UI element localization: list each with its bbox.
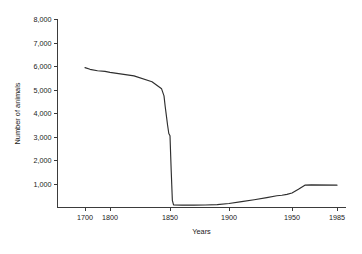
series-line-number-of-animals — [85, 68, 337, 205]
x-tick-label: 1950 — [284, 213, 300, 222]
x-axis-title: Years — [192, 227, 211, 236]
chart-canvas: 1,0002,0003,0004,0005,0006,0007,0008,000… — [0, 0, 362, 254]
line-chart: 1,0002,0003,0004,0005,0006,0007,0008,000… — [0, 0, 362, 254]
y-axis-title: Number of animals — [13, 82, 22, 144]
axis-spines — [58, 20, 346, 208]
y-tick-label: 2,000 — [34, 156, 52, 165]
y-axis-ticks: 1,0002,0003,0004,0005,0006,0007,0008,000 — [34, 15, 58, 189]
y-tick-label: 7,000 — [34, 39, 52, 48]
axis-spine-path — [58, 20, 346, 208]
y-tick-label: 3,000 — [34, 133, 52, 142]
y-tick-label: 6,000 — [34, 62, 52, 71]
y-tick-label: 4,000 — [34, 109, 52, 118]
x-tick-label: 1850 — [162, 213, 178, 222]
y-tick-label: 5,000 — [34, 86, 52, 95]
x-axis-ticks: 170018001850190019501985 — [77, 208, 345, 222]
x-tick-label: 1700 — [77, 213, 93, 222]
y-tick-label: 1,000 — [34, 180, 52, 189]
x-tick-label: 1800 — [102, 213, 118, 222]
x-tick-label: 1985 — [329, 213, 345, 222]
y-tick-label: 8,000 — [34, 15, 52, 24]
x-tick-label: 1900 — [221, 213, 237, 222]
series-group — [85, 68, 337, 205]
